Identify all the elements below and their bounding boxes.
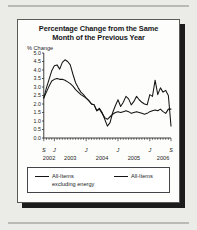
chart-title: Percentage Change from the Same Month of… <box>26 25 171 42</box>
svg-text:1.0: 1.0 <box>34 118 41 124</box>
svg-text:3.0: 3.0 <box>34 84 41 90</box>
chart-figure-panel: Percentage Change from the Same Month of… <box>17 19 180 203</box>
x-axis-tick-label: J <box>53 147 56 153</box>
svg-text:3.5: 3.5 <box>34 76 41 82</box>
x-axis-year-label: 2003 <box>64 155 76 161</box>
x-axis-year-label: 2002 <box>43 155 55 161</box>
legend-entry-all-items: All-Items <box>114 173 153 181</box>
x-axis-labels: SJJJJS20022003200420052006 <box>27 147 172 163</box>
legend-line-swatch-icon <box>114 176 128 177</box>
svg-text:4.5: 4.5 <box>34 59 41 65</box>
bottom-divider-rule <box>8 222 189 224</box>
top-divider-rule <box>8 5 189 7</box>
chart-title-line-2: Month of the Previous Year <box>26 34 171 43</box>
page-background: Percentage Change from the Same Month of… <box>0 0 197 230</box>
x-axis-tick-label: S <box>169 147 173 153</box>
svg-text:0.5: 0.5 <box>34 127 41 133</box>
x-axis-year-label: 2006 <box>157 155 169 161</box>
svg-text:4.0: 4.0 <box>34 67 41 73</box>
legend-label-line-1: All-Items <box>52 173 74 179</box>
x-axis-tick-label: J <box>117 147 120 153</box>
x-axis-year-label: 2004 <box>96 155 108 161</box>
legend-label-line-2: excluding energy <box>52 181 94 187</box>
svg-text:2.0: 2.0 <box>34 101 41 107</box>
svg-text:5.0: 5.0 <box>34 50 41 56</box>
svg-text:2.5: 2.5 <box>34 93 41 99</box>
svg-text:0.0: 0.0 <box>34 135 41 141</box>
chart-plot-svg: 5.04.54.03.53.02.52.01.51.00.50.0 <box>27 51 172 147</box>
x-axis-year-label: 2005 <box>128 155 140 161</box>
svg-text:1.5: 1.5 <box>34 110 41 116</box>
x-axis-tick-label: S <box>42 147 46 153</box>
plot-area: 5.04.54.03.53.02.52.01.51.00.50.0 <box>27 51 172 147</box>
legend-line-swatch-icon <box>35 176 49 177</box>
legend-label-all-items: All-Items <box>131 173 153 181</box>
chart-legend: All-Items excluding energy All-Items <box>27 167 170 193</box>
x-axis-tick-label: J <box>85 147 88 153</box>
x-axis-tick-label: J <box>148 147 151 153</box>
legend-entry-all-items-excluding-energy: All-Items excluding energy <box>35 173 94 188</box>
